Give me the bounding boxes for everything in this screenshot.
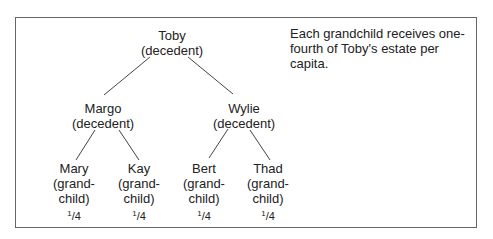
node-role: (decedent): [213, 116, 275, 131]
node-name: Thad: [247, 161, 289, 176]
share-fraction: 1/4: [118, 206, 160, 224]
edge-margo-mary: [76, 130, 95, 160]
node-name: Margo: [72, 101, 134, 116]
edge-wylie-bert: [209, 129, 228, 158]
node-name: Kay: [118, 161, 160, 176]
node-role: (grand-: [247, 176, 289, 191]
share-fraction: 1/4: [183, 206, 225, 224]
node-role: (grand-: [183, 176, 225, 191]
explanatory-note: Each grandchild receives one-fourth of T…: [290, 26, 480, 71]
node-role: (grand-: [53, 176, 95, 191]
node-role: (decedent): [141, 43, 203, 58]
share-fraction: 1/4: [53, 206, 95, 224]
node-name: Toby: [141, 28, 203, 43]
node-wylie: Wylie (decedent): [213, 101, 275, 131]
node-role: (decedent): [72, 116, 134, 131]
node-thad: Thad (grand- child) 1/4: [247, 161, 289, 224]
node-role: child): [183, 191, 225, 206]
node-name: Bert: [183, 161, 225, 176]
node-toby: Toby (decedent): [141, 28, 203, 58]
node-role: child): [118, 191, 160, 206]
edge-wylie-thad: [250, 130, 270, 160]
share-fraction: 1/4: [247, 206, 289, 224]
edge-toby-margo: [104, 57, 150, 95]
node-role: child): [53, 191, 95, 206]
node-name: Mary: [53, 161, 95, 176]
edge-margo-kay: [119, 130, 139, 160]
node-role: (grand-: [118, 176, 160, 191]
node-role: child): [247, 191, 289, 206]
node-name: Wylie: [213, 101, 275, 116]
node-bert: Bert (grand- child) 1/4: [183, 161, 225, 224]
edge-toby-wylie: [188, 57, 233, 94]
node-kay: Kay (grand- child) 1/4: [118, 161, 160, 224]
node-margo: Margo (decedent): [72, 101, 134, 131]
node-mary: Mary (grand- child) 1/4: [53, 161, 95, 224]
